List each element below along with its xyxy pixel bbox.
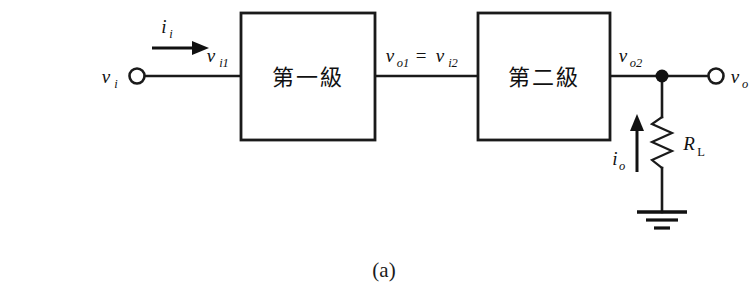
output-voltage-subscript: o — [742, 77, 748, 91]
input-terminal-icon[interactable] — [130, 69, 145, 84]
output-terminal-icon[interactable] — [709, 69, 724, 84]
load-resistor-label: R — [682, 133, 695, 154]
circuit-svg: 第一級 第二級 v i i i v i1 v o1 = v i2 v o2 v … — [0, 0, 751, 305]
output-current-subscript: o — [619, 159, 625, 173]
interstage-equals-sign: = — [416, 45, 427, 66]
stage1-input-label: v — [207, 45, 216, 66]
stage1-input-subscript: i1 — [219, 56, 229, 70]
output-current-arrow-head — [630, 114, 644, 131]
interstage-label-right-subscript: i2 — [448, 56, 458, 70]
stage2-output-label: v — [619, 45, 628, 66]
input-current-label: i — [161, 16, 166, 37]
block-stage1-label: 第一級 — [272, 65, 344, 90]
block-stage2-label: 第二級 — [508, 65, 580, 90]
junction-node-icon — [656, 70, 669, 83]
load-resistor-icon — [652, 117, 672, 168]
interstage-label-right: v — [436, 45, 445, 66]
output-current-label: i — [612, 148, 617, 169]
input-voltage-subscript: i — [114, 77, 118, 91]
load-resistor-subscript: L — [697, 145, 705, 159]
input-current-subscript: i — [169, 27, 173, 41]
circuit-diagram: 第一級 第二級 v i i i v i1 v o1 = v i2 v o2 v … — [0, 0, 751, 305]
stage2-output-subscript: o2 — [630, 56, 643, 70]
interstage-label-left-subscript: o1 — [397, 56, 410, 70]
interstage-label-left: v — [386, 45, 395, 66]
input-voltage-label: v — [102, 66, 111, 87]
output-voltage-label: v — [731, 66, 740, 87]
figure-caption: (a) — [372, 258, 395, 282]
